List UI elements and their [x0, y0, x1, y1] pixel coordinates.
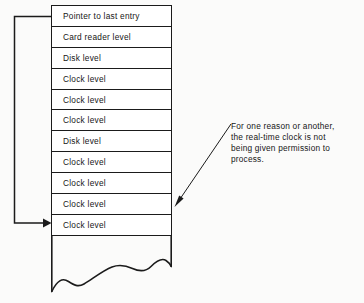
- stack-cell-label: Pointer to last entry: [52, 6, 172, 27]
- torn-bottom-edge: [52, 236, 171, 292]
- callout-line: being given permission to: [231, 143, 359, 154]
- stack-cell-label: Clock level: [52, 110, 172, 131]
- callout-line: For one reason or another,: [231, 121, 359, 132]
- stack-cell-label: Clock level: [52, 152, 172, 173]
- stack-row: Clock level: [52, 68, 172, 89]
- callout-arrowhead-icon: [175, 195, 184, 207]
- callout-line: the real-time clock is not: [231, 132, 359, 143]
- stack-cell-label: Clock level: [52, 173, 172, 194]
- stack-row: Clock level: [52, 214, 172, 235]
- stack-cell-label: Clock level: [52, 89, 172, 110]
- callout-line: process.: [231, 154, 359, 165]
- stack-row: Disk level: [52, 47, 172, 68]
- callout-leader-line: [180, 124, 231, 199]
- stack-row: Pointer to last entry: [52, 6, 172, 27]
- stack-cell-label: Clock level: [52, 68, 172, 89]
- stack-cell-label: Disk level: [52, 131, 172, 152]
- interrupt-stack: Pointer to last entry Card reader level …: [51, 5, 172, 236]
- stack-row: Clock level: [52, 89, 172, 110]
- stack-row: Clock level: [52, 110, 172, 131]
- stack-cell-label: Clock level: [52, 214, 172, 235]
- stack-cell-label: Disk level: [52, 47, 172, 68]
- stack-cell-label: Card reader level: [52, 26, 172, 47]
- stack-cell-label: Clock level: [52, 194, 172, 215]
- stack-row: Clock level: [52, 194, 172, 215]
- stack-row: Clock level: [52, 173, 172, 194]
- pointer-to-last-entry-arrow: [15, 17, 52, 224]
- stack-row: Clock level: [52, 152, 172, 173]
- stack-diagram: Pointer to last entry Card reader level …: [0, 0, 364, 303]
- real-time-clock-callout: For one reason or another, the real-time…: [231, 121, 359, 165]
- stack-row: Disk level: [52, 131, 172, 152]
- stack-row: Card reader level: [52, 26, 172, 47]
